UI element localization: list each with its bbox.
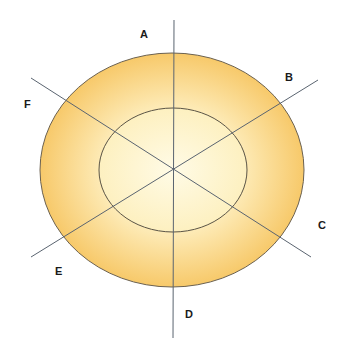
label-d: D [185, 308, 193, 320]
label-a: A [140, 28, 148, 40]
label-c: C [318, 219, 326, 231]
concentric-ellipse-diagram: A B C D E F [0, 0, 342, 358]
label-f: F [24, 98, 31, 110]
label-e: E [55, 265, 62, 277]
label-b: B [285, 71, 293, 83]
